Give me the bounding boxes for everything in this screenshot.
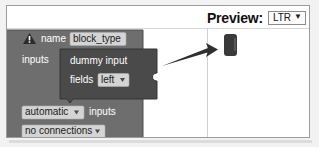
block-row-automatic-inputs[interactable]: automatic inputs: [22, 106, 116, 119]
connections-dropdown-value[interactable]: no connections: [25, 125, 92, 136]
block-factory-workspace[interactable]: name block_type inputs dummy input field…: [7, 28, 207, 138]
preview-pane[interactable]: [208, 28, 310, 138]
name-row-label: name: [41, 33, 66, 44]
automatic-row-label: inputs: [89, 106, 116, 117]
dummy-input-title: dummy input: [70, 55, 127, 66]
block-factory-card: Preview: LTR ▼ name: [6, 5, 310, 138]
block-row-connections[interactable]: no connections: [22, 125, 105, 138]
direction-select-value: LTR: [273, 13, 291, 23]
fields-dropdown-value[interactable]: left: [101, 74, 115, 85]
fields-label: fields: [70, 74, 93, 85]
automatic-dropdown-value[interactable]: automatic: [25, 106, 68, 117]
chevron-down-icon: ▼: [294, 13, 302, 21]
inputs-row-label: inputs: [22, 54, 49, 65]
preview-label: Preview:: [207, 11, 263, 25]
factory-block-graphic[interactable]: name block_type inputs dummy input field…: [7, 28, 207, 138]
block-type-field-value[interactable]: block_type: [73, 33, 121, 44]
direction-select[interactable]: LTR ▼: [268, 11, 306, 25]
preview-header: Preview: LTR ▼: [207, 8, 306, 28]
preview-block[interactable]: [224, 34, 237, 56]
screenshot-root: Preview: LTR ▼ name: [0, 0, 319, 147]
card-shadow: [9, 140, 312, 143]
